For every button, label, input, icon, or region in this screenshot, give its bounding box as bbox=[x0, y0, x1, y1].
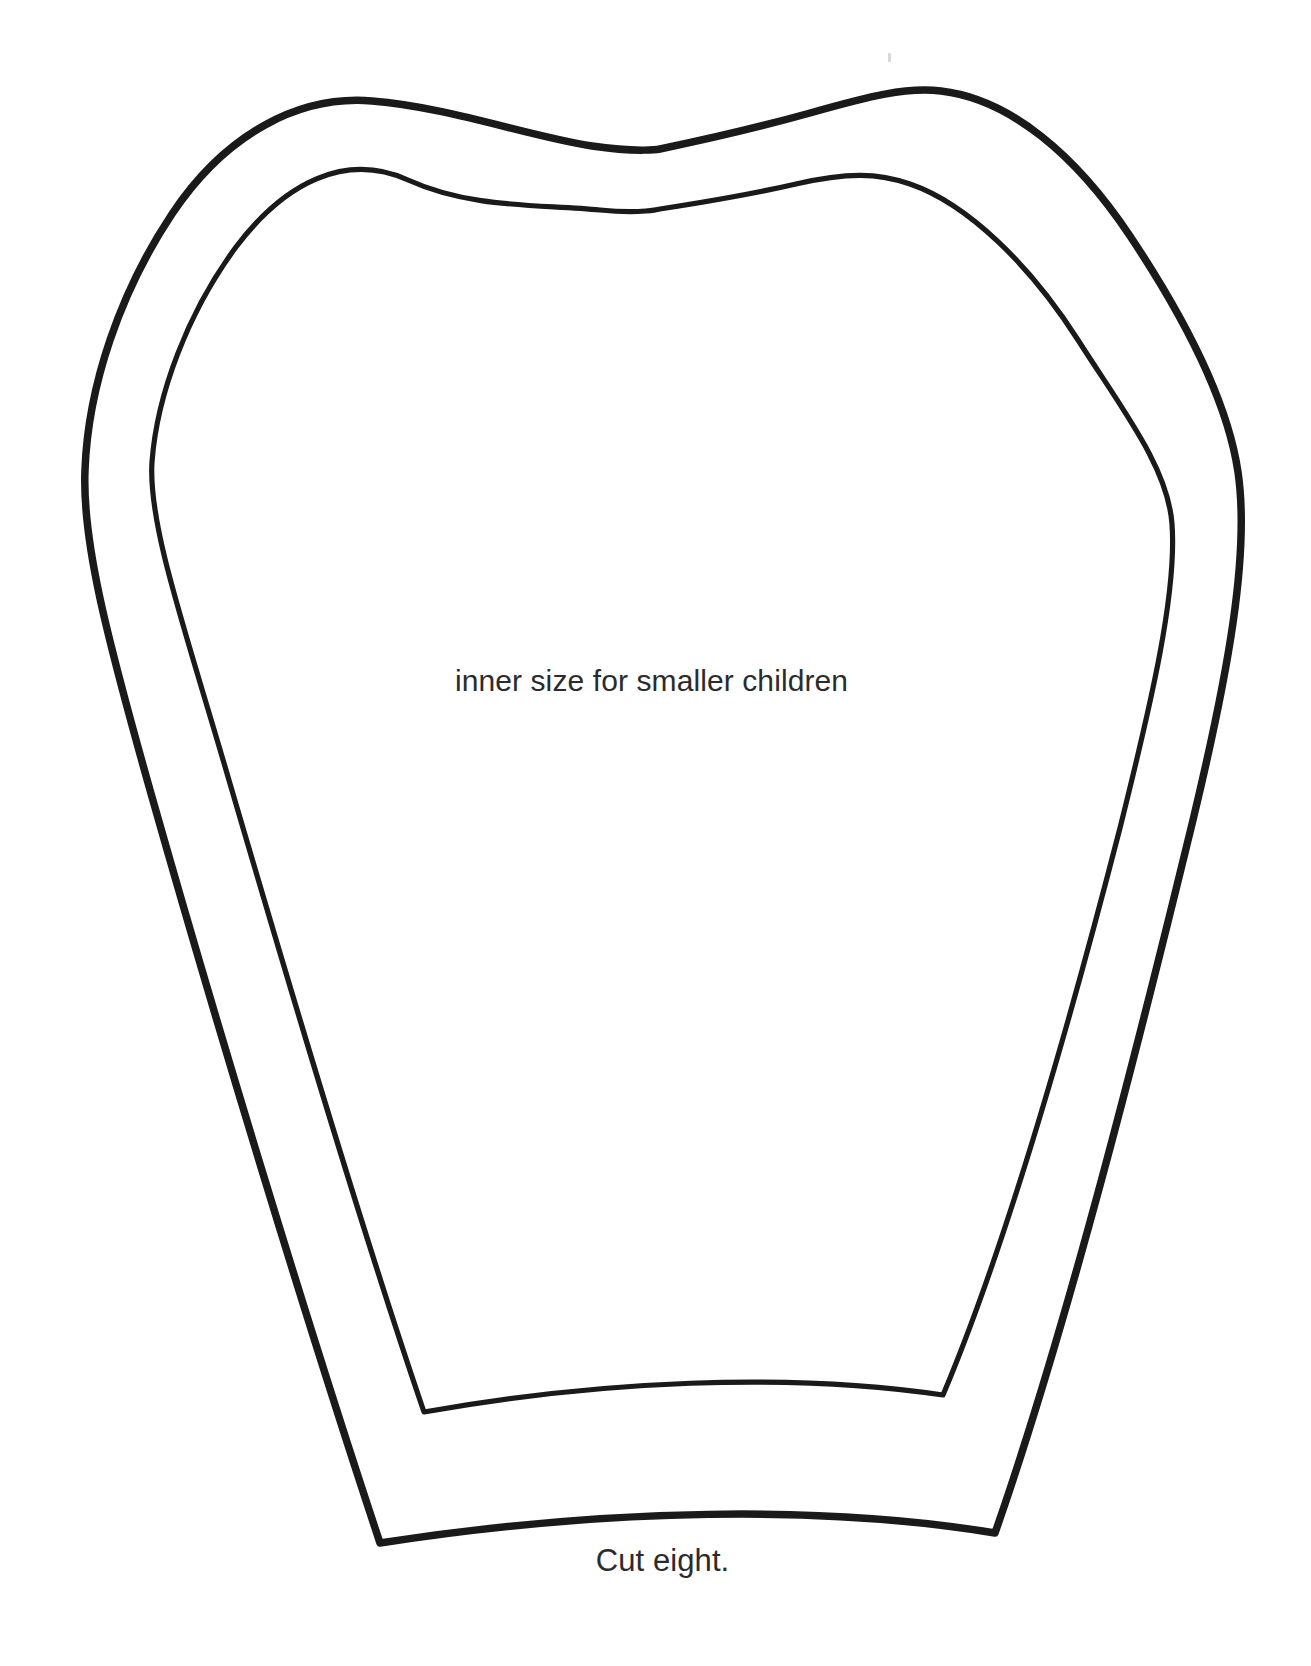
outer-cutting-line bbox=[85, 90, 1242, 1543]
pattern-page: inner size for smaller children Cut eigh… bbox=[0, 0, 1311, 1666]
inner-cutting-line bbox=[152, 170, 1173, 1412]
inner-size-label: inner size for smaller children bbox=[0, 664, 1311, 698]
cut-count-label: Cut eight. bbox=[0, 1543, 1311, 1579]
scan-speck-artifact bbox=[888, 53, 891, 62]
pattern-drawing bbox=[0, 0, 1311, 1666]
